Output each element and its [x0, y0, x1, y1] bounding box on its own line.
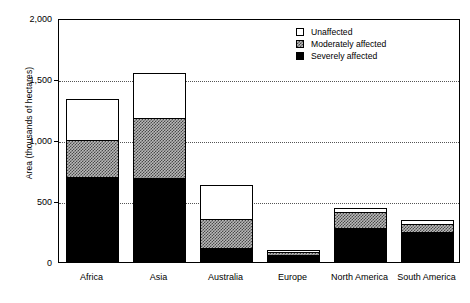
bar-segment-mod — [133, 118, 187, 178]
bar-segment-unaff — [334, 208, 388, 212]
x-axis-label-europe: Europe — [259, 272, 326, 282]
legend-label: Severely affected — [311, 50, 377, 62]
y-axis-tick-label: 0 — [8, 259, 52, 268]
x-axis-label-asia: Asia — [125, 272, 192, 282]
bar-segment-sev — [267, 255, 321, 262]
x-axis-label-north-america: North America — [326, 272, 393, 282]
bar-asia — [133, 18, 187, 262]
bar-segment-sev — [66, 177, 120, 262]
bar-segment-mod — [267, 252, 321, 255]
bar-segment-sev — [334, 228, 388, 262]
y-axis-tick-label: 500 — [8, 198, 52, 207]
bar-segment-unaff — [401, 220, 455, 224]
x-axis-label-south-america: South America — [393, 272, 460, 282]
legend-item: Unaffected — [296, 26, 386, 38]
bar-segment-sev — [401, 232, 455, 262]
bar-segment-mod — [334, 212, 388, 228]
legend-swatch-icon — [296, 28, 304, 36]
legend-label: Unaffected — [311, 26, 352, 38]
legend-item: Moderately affected — [296, 38, 386, 50]
bar-segment-sev — [200, 248, 254, 262]
bar-segment-unaff — [133, 73, 187, 118]
plot-area — [58, 19, 460, 263]
legend-swatch-icon — [296, 40, 304, 48]
legend-item: Severely affected — [296, 50, 386, 62]
bar-africa — [66, 18, 120, 262]
bar-south-america — [401, 18, 455, 262]
bar-group — [59, 20, 459, 262]
y-axis-tick-label: 2,000 — [8, 15, 52, 24]
bar-segment-unaff — [267, 250, 321, 251]
legend-swatch-icon — [296, 52, 304, 60]
x-axis-label-australia: Australia — [192, 272, 259, 282]
x-axis-label-africa: Africa — [58, 272, 125, 282]
y-axis-tick-label: 1,000 — [8, 137, 52, 146]
bar-segment-mod — [200, 219, 254, 248]
bar-segment-mod — [66, 140, 120, 177]
bar-segment-sev — [133, 178, 187, 262]
stacked-bar-chart: Area (thousands of hectares) 05001,0001,… — [0, 0, 470, 303]
bar-segment-mod — [401, 224, 455, 232]
bar-segment-unaff — [66, 99, 120, 140]
y-axis-tick-label: 1,500 — [8, 76, 52, 85]
legend-label: Moderately affected — [311, 38, 386, 50]
bar-segment-unaff — [200, 185, 254, 219]
bar-australia — [200, 18, 254, 262]
chart-legend: UnaffectedModerately affectedSeverely af… — [296, 26, 386, 63]
